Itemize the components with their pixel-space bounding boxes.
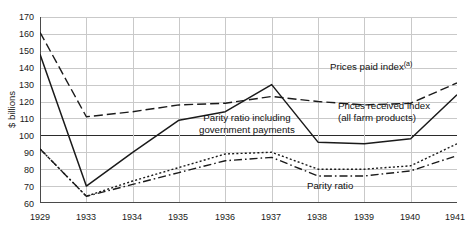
annotation-prices-received-index-line2: (all farm products) (338, 112, 430, 124)
y-tick-160: 160 (8, 30, 34, 39)
x-tick-1935: 1935 (158, 213, 198, 222)
annotation-footnote-marker-a: (a) (404, 60, 413, 67)
chart-figure: $ billions 170 160 150 140 130 120 110 1… (0, 0, 467, 237)
y-tick-150: 150 (8, 47, 34, 56)
x-tick-1936: 1936 (205, 213, 245, 222)
y-tick-110: 110 (8, 115, 34, 124)
x-tick-1937: 1937 (251, 213, 291, 222)
y-tick-60: 60 (8, 200, 34, 209)
y-tick-80: 80 (8, 166, 34, 175)
annotation-prices-received-index-line1: Prices received index (338, 100, 430, 112)
x-tick-1938: 1938 (297, 213, 337, 222)
annotation-parity-ratio-text: Parity ratio (307, 180, 353, 191)
y-tick-100: 100 (8, 132, 34, 141)
annotation-prices-paid-index-text: Prices paid index (330, 61, 404, 72)
y-tick-170: 170 (8, 13, 34, 22)
annotation-parity-govt-line1: Parity ratio including (199, 112, 295, 124)
series-line-2 (40, 144, 457, 196)
x-tick-1941: 1941 (435, 213, 467, 222)
y-tick-90: 90 (8, 149, 34, 158)
annotation-parity-ratio: Parity ratio (307, 180, 353, 192)
x-tick-1929: 1929 (20, 213, 60, 222)
x-tick-1933: 1933 (66, 213, 106, 222)
y-tick-130: 130 (8, 81, 34, 90)
series-line-3 (40, 149, 457, 196)
x-tick-1934: 1934 (112, 213, 152, 222)
x-tick-1939: 1939 (344, 213, 384, 222)
y-axis-tick-labels: 170 160 150 140 130 120 110 100 90 80 70… (8, 0, 34, 237)
x-tick-1940: 1940 (390, 213, 430, 222)
annotation-prices-paid-index: Prices paid index(a) (330, 58, 412, 73)
annotation-parity-ratio-including-government-payments: Parity ratio including government paymen… (199, 112, 295, 135)
y-tick-140: 140 (8, 64, 34, 73)
y-tick-120: 120 (8, 98, 34, 107)
annotation-prices-received-index: Prices received index (all farm products… (338, 100, 430, 123)
y-tick-70: 70 (8, 183, 34, 192)
annotation-parity-govt-line2: government payments (199, 124, 295, 136)
